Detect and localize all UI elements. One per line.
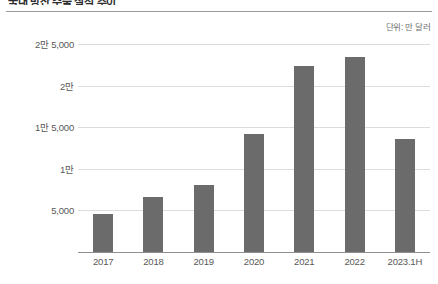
x-axis-labels: 2017201820192020202120222023.1H (78, 256, 430, 278)
unit-caption: 단위: 만 달러 (386, 20, 432, 32)
x-axis-tick-label: 2020 (244, 256, 264, 267)
page-title: 국내 방산 수출 실적 추이 (8, 0, 198, 5)
header-divider (6, 11, 432, 12)
bar-2017 (93, 214, 113, 252)
x-axis-tick-label: 2019 (194, 256, 214, 267)
x-axis-tick-label: 2022 (344, 256, 364, 267)
bar-2022 (345, 57, 365, 252)
y-axis-tick-label: 5,000 (0, 205, 74, 216)
y-axis-tick-label: 2만 (0, 79, 74, 93)
x-axis-tick-label: 2017 (93, 256, 113, 267)
x-axis-tick-label: 2023.1H (388, 256, 423, 267)
y-axis-tick-label: 2만 5,000 (0, 37, 74, 51)
y-axis-tick-label: 1만 5,000 (0, 120, 74, 134)
y-axis-labels: 5,0001만1만 5,0002만2만 5,000 (0, 44, 74, 253)
bar-2020 (244, 134, 264, 252)
bar-2018 (143, 197, 163, 252)
x-axis-tick-label: 2018 (143, 256, 163, 267)
bar-2021 (294, 66, 314, 252)
bar-2019 (194, 185, 214, 252)
y-axis-tick-label: 1만 (0, 162, 74, 176)
x-axis-tick-label: 2021 (294, 256, 314, 267)
chart-page: 국내 방산 수출 실적 추이 단위: 만 달러 5,0001만1만 5,0002… (0, 0, 438, 284)
bar-2023.1H (395, 139, 415, 252)
bar-series (78, 44, 430, 253)
